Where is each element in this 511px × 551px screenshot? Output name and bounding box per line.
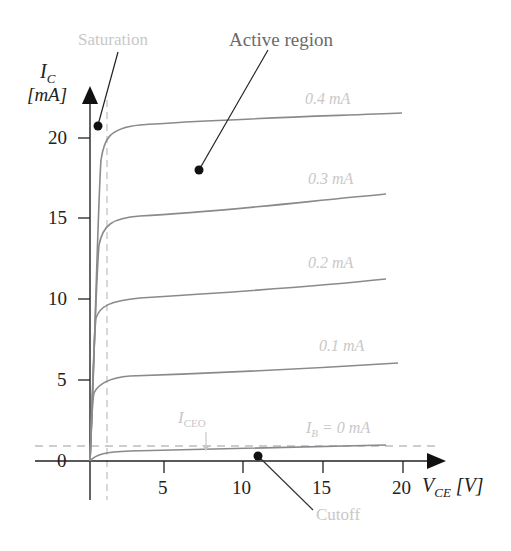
curve-label-0.1: 0.1 mA	[319, 337, 364, 355]
x-ticks	[164, 461, 403, 473]
x-axis-symbol: V	[422, 474, 434, 496]
active-region-pointer	[199, 50, 268, 170]
cutoff-dot	[254, 452, 263, 461]
ib0-label: IB = 0 mA	[306, 419, 370, 439]
y-axis-symbol: I	[40, 60, 47, 82]
curve-ib-0.4	[90, 113, 402, 461]
ib0-value: = 0 mA	[318, 419, 370, 436]
x-axis-label: VCE [V]	[422, 474, 484, 501]
saturation-pointer	[98, 52, 118, 125]
y-ticks	[78, 138, 90, 380]
x-tick-10: 10	[232, 477, 251, 499]
x-tick-5: 5	[158, 477, 168, 499]
x-axis-subscript: CE	[434, 485, 451, 500]
curve-label-0.4: 0.4 mA	[305, 90, 350, 108]
cutoff-pointer	[259, 457, 313, 510]
x-tick-15: 15	[312, 477, 331, 499]
saturation-dot	[94, 122, 103, 131]
y-tick-5: 5	[57, 369, 67, 391]
x-tick-20: 20	[392, 477, 411, 499]
iceo-label: ICEO	[178, 408, 206, 429]
x-axis-arrow-icon	[427, 453, 446, 469]
y-axis-arrow-icon	[82, 86, 98, 104]
iceo-subscript: CEO	[184, 417, 206, 429]
curve-label-0.3: 0.3 mA	[308, 170, 353, 188]
y-tick-0: 0	[57, 450, 67, 472]
cutoff-label: Cutoff	[316, 505, 360, 525]
y-tick-20: 20	[48, 127, 67, 149]
transistor-characteristic-chart	[0, 0, 511, 551]
saturation-label: Saturation	[78, 30, 148, 50]
active-region-label: Active region	[229, 29, 333, 51]
iceo-arrow-icon	[202, 445, 210, 451]
curve-ib-0	[90, 445, 386, 461]
y-axis-unit: [mA]	[27, 84, 67, 106]
y-tick-10: 10	[48, 288, 67, 310]
curve-label-0.2: 0.2 mA	[308, 254, 353, 272]
x-axis-unit: [V]	[456, 474, 484, 496]
active-region-dot	[195, 166, 204, 175]
y-tick-15: 15	[48, 207, 67, 229]
